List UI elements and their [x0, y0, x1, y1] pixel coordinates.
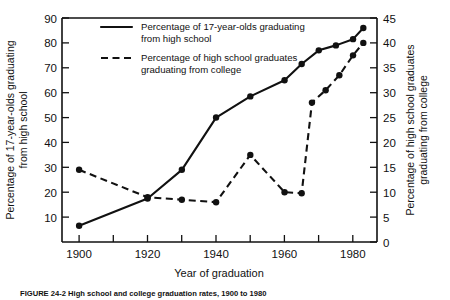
- right-tick-label: 25: [383, 112, 396, 124]
- data-point-marker: [350, 52, 356, 58]
- left-tick-label: 40: [44, 137, 57, 149]
- data-point-marker: [76, 223, 82, 229]
- right-tick-label: 20: [383, 137, 396, 149]
- left-tick-label: 90: [44, 13, 57, 25]
- left-tick-label: 50: [44, 112, 57, 124]
- right-tick-label: 40: [383, 37, 396, 49]
- data-point-marker: [247, 152, 253, 158]
- data-point-marker: [298, 61, 304, 67]
- legend-label-1-line2: from high school: [141, 33, 211, 44]
- legend-label-2-line1: Percentage of high school graduates: [141, 52, 297, 63]
- x-tick-label: 1980: [340, 248, 366, 260]
- left-tick-label: 80: [44, 37, 57, 49]
- y2-axis-title-line2: graduating from college: [417, 75, 429, 185]
- left-tick-label: 70: [44, 62, 57, 74]
- data-point-marker: [179, 196, 185, 202]
- left-axis-ticks: [62, 18, 69, 217]
- data-point-marker: [298, 190, 304, 196]
- y-axis-title-line1: Percentage of 17-year-olds graduating: [4, 40, 16, 219]
- figure-container: 90 80 70 60 50 40 30 20 10 45 40 35: [0, 0, 450, 300]
- left-tick-label: 10: [44, 212, 57, 224]
- data-point-marker: [213, 199, 219, 205]
- data-point-marker: [336, 72, 342, 78]
- left-tick-label: 60: [44, 87, 57, 99]
- right-axis-tick-labels: 45 40 35 30 25 20 15 10 5 0: [383, 13, 396, 249]
- x-axis-title: Year of graduation: [174, 267, 264, 279]
- x-tick-label: 1900: [66, 248, 92, 260]
- x-tick-label: 1940: [203, 248, 229, 260]
- legend-label-1-line1: Percentage of 17-year-olds graduating: [141, 21, 305, 32]
- data-point-marker: [333, 42, 339, 48]
- right-tick-label: 5: [383, 212, 389, 224]
- data-point-marker: [316, 47, 322, 53]
- right-tick-label: 35: [383, 62, 396, 74]
- right-tick-label: 10: [383, 187, 396, 199]
- data-point-marker: [281, 189, 287, 195]
- data-point-marker: [281, 77, 287, 83]
- data-point-marker: [309, 99, 315, 105]
- x-axis-tick-labels: 1900 1920 1940 1960 1980: [66, 248, 365, 260]
- data-point-marker: [360, 40, 366, 46]
- x-axis-ticks: [79, 235, 353, 242]
- left-axis-tick-labels: 90 80 70 60 50 40 30 20 10: [44, 13, 57, 224]
- x-tick-label: 1920: [135, 248, 161, 260]
- data-point-marker: [350, 36, 356, 42]
- left-tick-label: 30: [44, 162, 57, 174]
- left-tick-label: 20: [44, 187, 57, 199]
- figure-caption: FIGURE 24-2 High school and college grad…: [20, 289, 266, 298]
- data-point-marker: [213, 114, 219, 120]
- data-point-marker: [144, 194, 150, 200]
- y2-axis-title-line1: Percentage of high school graduates: [404, 44, 416, 215]
- right-tick-label: 45: [383, 13, 396, 25]
- data-point-marker: [247, 93, 253, 99]
- right-tick-label: 15: [383, 162, 396, 174]
- right-tick-label: 30: [383, 87, 396, 99]
- data-point-marker: [179, 167, 185, 173]
- legend-label-2-line2: graduating from college: [141, 64, 241, 75]
- data-point-marker: [360, 25, 366, 31]
- data-point-marker: [322, 87, 328, 93]
- y-axis-title-line2: from high school: [17, 91, 29, 168]
- data-point-marker: [76, 167, 82, 173]
- chart-svg: 90 80 70 60 50 40 30 20 10 45 40 35: [0, 0, 450, 300]
- x-tick-label: 1960: [272, 248, 298, 260]
- right-tick-label: 0: [383, 237, 389, 249]
- right-axis-ticks: [370, 18, 377, 242]
- chart-legend: Percentage of 17-year-olds graduating fr…: [101, 21, 305, 75]
